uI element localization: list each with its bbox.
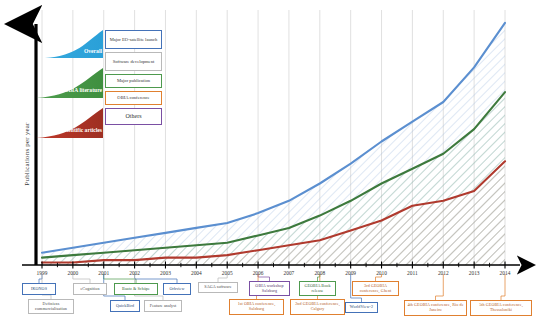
series-label-scientific-articles: Scientific articles [30, 127, 102, 133]
annotation-software-2005[interactable]: SAGA software [198, 282, 238, 293]
annotation-others-2006[interactable]: OBIA workshop Salzburg [249, 281, 290, 296]
x-axis-label-2001: 2001 [91, 270, 117, 276]
x-axis-label-2012: 2012 [430, 270, 456, 276]
swatch-obia-literature [36, 68, 103, 98]
x-axis-label-2004: 2004 [183, 270, 209, 276]
annotation-conference-2008[interactable]: 2nd GEOBIA conference, Calgary [290, 299, 345, 315]
x-axis-label-2007: 2007 [276, 270, 302, 276]
x-axis-label-2002: 2002 [122, 270, 148, 276]
legend-item-publication[interactable]: Major publication [105, 74, 162, 88]
series-swatches [36, 30, 103, 138]
legend-item-conference[interactable]: OBIA conference [105, 91, 162, 105]
annotation-satellite-2001[interactable]: QuickBird [110, 300, 140, 312]
x-axis-label-2008: 2008 [307, 270, 333, 276]
x-axis-label-2013: 2013 [461, 270, 487, 276]
annotation-publication-2008[interactable]: GEOBIA Book release [299, 281, 336, 296]
connector [436, 274, 444, 300]
x-axis-label-2005: 2005 [214, 270, 240, 276]
annotation-software-2000[interactable]: eCognition [73, 283, 107, 295]
x-axis-label-2009: 2009 [338, 270, 364, 276]
annotation-software-1999[interactable]: Definiens commercialisation [28, 299, 74, 314]
legend-item-software[interactable]: Software development [105, 52, 162, 71]
x-axis-label-2003: 2003 [152, 270, 178, 276]
annotation-software-2002[interactable]: Feature analyst [144, 300, 182, 312]
x-axis-label-2011: 2011 [399, 270, 425, 276]
annotation-conference-2014[interactable]: 5th GEOBIA conference, Thessaloniki [470, 300, 532, 316]
legend-item-satellite[interactable]: Major EO-satellite launch [105, 30, 162, 49]
x-axis-label-2000: 2000 [60, 270, 86, 276]
annotation-publication-2001[interactable]: Baatz & Schäpe [114, 283, 158, 295]
annotation-conference-2012[interactable]: 4th GEOBIA conference, Rio de Janeiro [404, 300, 467, 316]
x-axis-label-1999: 1999 [29, 270, 55, 276]
chart-figure: Publications per year [0, 0, 537, 335]
annotation-satellite-2002[interactable]: Orbview [163, 283, 191, 295]
legend-item-others[interactable]: Others [105, 108, 162, 125]
series-label-overall: Overall [52, 48, 102, 54]
series-label-obia-literature: OBIA literature [30, 87, 102, 93]
y-axis-label: Publications per year [23, 104, 31, 204]
swatch-scientific-articles [36, 108, 103, 138]
connector [501, 274, 505, 300]
x-axis-label-2006: 2006 [245, 270, 271, 276]
annotation-satellite-2009[interactable]: WorldView-2 [345, 302, 378, 313]
annotation-conference-2010[interactable]: 3rd GEOBIA conference, Ghent [352, 281, 399, 296]
x-axis-label-2014: 2014 [492, 270, 518, 276]
annotation-satellite-1999[interactable]: IKONOS [22, 283, 56, 295]
annotation-conference-2006[interactable]: 1st OBIA conference, Salzburg [229, 299, 284, 315]
x-axis-label-2010: 2010 [369, 270, 395, 276]
